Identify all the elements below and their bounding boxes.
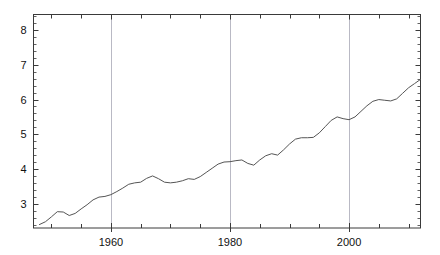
- y-axis-label-5: 5: [20, 128, 26, 140]
- y-axis-label-4: 4: [20, 163, 26, 175]
- chart-background: [0, 0, 440, 255]
- y-axis-label-3: 3: [20, 198, 26, 210]
- x-axis-label-1960: 1960: [99, 236, 123, 248]
- chart-figure: 345678 196019802000: [0, 0, 440, 255]
- y-axis-label-8: 8: [20, 24, 26, 36]
- x-axis-label-2000: 2000: [337, 236, 361, 248]
- line-chart: 345678 196019802000: [0, 0, 440, 255]
- y-axis-label-6: 6: [20, 94, 26, 106]
- x-axis-label-1980: 1980: [218, 236, 242, 248]
- y-axis-label-7: 7: [20, 59, 26, 71]
